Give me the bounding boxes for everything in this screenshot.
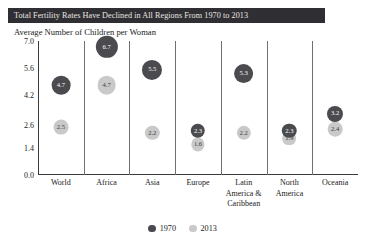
data-bubble-2013-africa: 4.7 — [97, 76, 116, 95]
category-divider — [84, 41, 85, 175]
x-axis-category-label-line: Caribbean — [214, 199, 274, 210]
data-bubble-1970-africa: 6.7 — [95, 36, 117, 58]
data-bubble-2013-world: 2.5 — [53, 120, 68, 135]
y-axis-tick-label: 4.2 — [12, 90, 34, 99]
y-axis-tick-label: 5.6 — [12, 63, 34, 72]
legend-item-1970[interactable]: 1970 — [148, 224, 176, 233]
y-axis-tick-label: 7.0 — [12, 37, 34, 46]
category-divider — [267, 41, 268, 175]
data-bubble-1970-world: 4.7 — [51, 76, 70, 95]
legend-label: 2013 — [201, 224, 217, 233]
category-divider — [129, 41, 130, 175]
page-title: Total Fertility Rates Have Declined in A… — [14, 11, 248, 20]
data-bubble-2013-latin-america-caribbean: 2.2 — [237, 126, 251, 140]
legend-swatch-icon — [148, 225, 156, 233]
category-divider — [175, 41, 176, 175]
data-bubble-1970-latin-america-caribbean: 5.3 — [234, 64, 254, 84]
data-bubble-1970-oceania: 3.2 — [327, 106, 343, 122]
legend-label: 1970 — [160, 224, 176, 233]
chart-title-banner: Total Fertility Rates Have Declined in A… — [8, 8, 325, 23]
chart-legend: 19702013 — [0, 224, 365, 233]
data-bubble-2013-asia: 2.2 — [145, 126, 159, 140]
y-axis-tick-label: 1.4 — [12, 144, 34, 153]
x-axis-line — [38, 174, 358, 175]
chart-subtitle: Average Number of Children per Woman — [14, 27, 156, 37]
data-bubble-2013-europe: 1.6 — [191, 138, 204, 151]
x-axis-category-label: Oceania — [305, 178, 365, 189]
y-axis: 0.01.42.64.25.67.0 — [10, 41, 34, 175]
x-axis-category-label-line: Oceania — [305, 178, 365, 189]
category-divider — [221, 41, 222, 175]
data-bubble-1970-europe: 2.3 — [191, 124, 205, 138]
y-axis-tick-label: 2.6 — [12, 121, 34, 130]
plot-area: 2.54.72.21.62.21.92.44.76.75.52.35.32.33… — [38, 41, 358, 175]
legend-swatch-icon — [189, 225, 197, 233]
data-bubble-2013-oceania: 2.4 — [328, 122, 343, 137]
legend-item-2013[interactable]: 2013 — [189, 224, 217, 233]
y-axis-line — [38, 41, 39, 175]
category-divider — [312, 41, 313, 175]
data-bubble-1970-asia: 5.5 — [142, 60, 162, 80]
chart-figure: Total Fertility Rates Have Declined in A… — [0, 0, 365, 246]
x-axis-category-label-line: America — [259, 189, 319, 200]
